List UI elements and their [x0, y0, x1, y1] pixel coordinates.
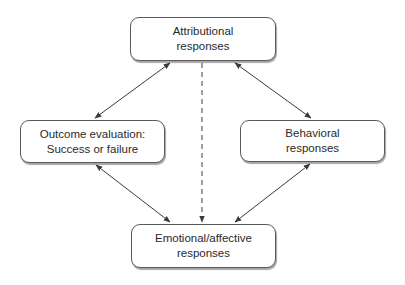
edge-behavioral-emotional: [235, 164, 310, 222]
node-label-line: Success or failure: [40, 142, 145, 157]
edge-attributional-outcome: [95, 63, 170, 118]
node-label-line: responses: [173, 39, 234, 54]
node-label-line: responses: [285, 141, 339, 156]
node-label-line: Emotional/affective: [155, 231, 252, 246]
node-behavioral-responses: Behavioral responses: [240, 120, 385, 162]
node-attributional-responses: Attributional responses: [130, 17, 276, 61]
node-label-line: Attributional: [173, 24, 234, 39]
node-label-line: Behavioral: [285, 126, 339, 141]
node-label-line: Outcome evaluation:: [40, 127, 145, 142]
node-label-line: responses: [155, 246, 252, 261]
node-emotional-affective-responses: Emotional/affective responses: [131, 224, 276, 268]
edge-attributional-behavioral: [235, 63, 311, 118]
node-outcome-evaluation: Outcome evaluation: Success or failure: [20, 120, 165, 163]
edge-outcome-emotional: [96, 165, 170, 222]
